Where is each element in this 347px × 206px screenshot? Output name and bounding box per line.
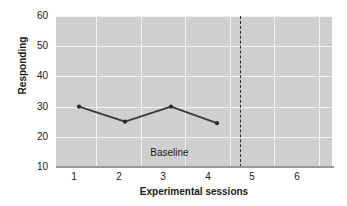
data-point-marker [215,121,219,125]
x-axis-tick-label: 6 [282,172,312,182]
x-axis-tick-label: 3 [148,172,178,182]
y-axis-tick-label: 20 [20,132,48,142]
baseline-annotation-label: Baseline [150,147,188,158]
x-axis-tick-label: 2 [104,172,134,182]
y-axis-tick-label: 10 [20,162,48,172]
y-axis-tick-label: 30 [20,102,48,112]
data-point-marker [169,105,173,109]
plot-area: Baseline [56,16,332,167]
data-series-line [56,16,332,167]
y-axis-tick-label: 50 [20,41,48,51]
data-point-marker [77,105,81,109]
y-axis-tick-label: 40 [20,71,48,81]
data-point-marker [123,120,127,124]
x-axis-line [56,166,334,168]
x-axis-tick-label: 1 [59,172,89,182]
y-axis-title: Responding [17,16,28,116]
x-axis-title: Experimental sessions [56,186,332,197]
x-axis-tick-label: 5 [237,172,267,182]
x-axis-tick-label: 4 [193,172,223,182]
line-chart: Responding 60 50 40 30 20 10 Baseline 1 … [0,0,347,206]
y-axis-tick-label: 60 [20,11,48,21]
